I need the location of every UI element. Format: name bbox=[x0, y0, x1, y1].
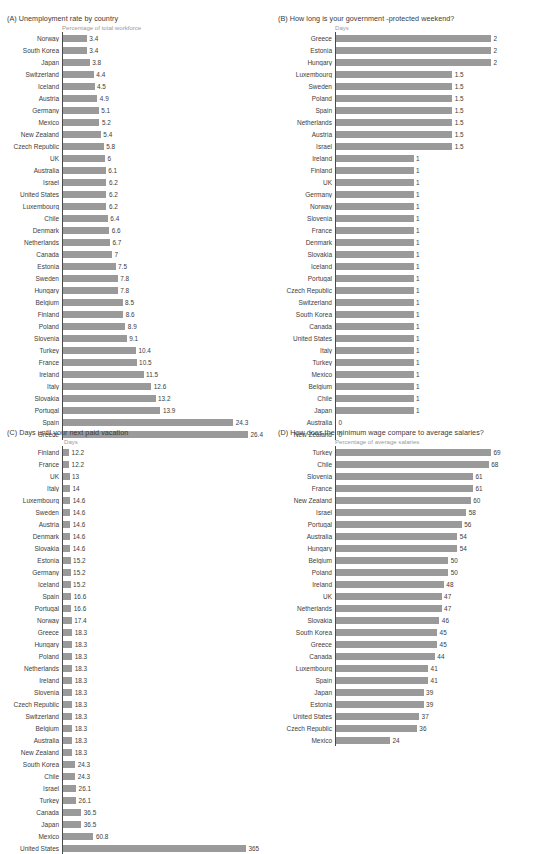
panel-c-title: (C) Days until your next paid vacation bbox=[7, 428, 270, 437]
bar-row: Netherlands47 bbox=[273, 602, 541, 614]
bar-row: Spain24.3 bbox=[2, 416, 270, 428]
bar-row: South Korea24.3 bbox=[2, 758, 270, 770]
category-label: Czech Republic bbox=[2, 701, 62, 708]
bar bbox=[63, 533, 70, 540]
category-label: Belgium bbox=[2, 725, 62, 732]
category-label: Australia bbox=[273, 533, 335, 540]
bar-row: Netherlands1.5 bbox=[273, 116, 541, 128]
bar-row: Australia54 bbox=[273, 530, 541, 542]
bar bbox=[336, 569, 448, 576]
category-label: Spain bbox=[273, 107, 335, 114]
bar bbox=[336, 335, 414, 342]
bar-row: Slovenia1 bbox=[273, 212, 541, 224]
bar-row: Czech Republic36 bbox=[273, 722, 541, 734]
category-label: Luxembourg bbox=[273, 665, 335, 672]
bar-row: Sweden14.6 bbox=[2, 506, 270, 518]
bar-value-label: 18.3 bbox=[75, 725, 87, 732]
bar-value-label: 18.3 bbox=[75, 665, 87, 672]
bar-value-label: 1 bbox=[416, 395, 420, 402]
panel-b-rows: Greece2Estonia2Hungary2Luxembourg1.5Swed… bbox=[273, 32, 541, 440]
category-label: Japan bbox=[2, 59, 62, 66]
bar-track: 47 bbox=[335, 602, 541, 614]
bar-track: 6.2 bbox=[62, 188, 270, 200]
bar-track: 6.2 bbox=[62, 200, 270, 212]
bar bbox=[336, 713, 419, 720]
category-label: UK bbox=[2, 473, 62, 480]
bar-row: Chile6.4 bbox=[2, 212, 270, 224]
bar-track: 15.2 bbox=[62, 566, 270, 578]
category-label: Mexico bbox=[273, 737, 335, 744]
bar-track: 8.9 bbox=[62, 320, 270, 332]
bar-track: 5.2 bbox=[62, 116, 270, 128]
bar-row: Italy14 bbox=[2, 482, 270, 494]
bar-track: 3.4 bbox=[62, 44, 270, 56]
bar-value-label: 13.2 bbox=[158, 395, 170, 402]
bar-track: 18.3 bbox=[62, 686, 270, 698]
bar-value-label: 1 bbox=[416, 203, 420, 210]
bar-row: Greece18.3 bbox=[2, 626, 270, 638]
category-label: Netherlands bbox=[2, 665, 62, 672]
category-label: Turkey bbox=[273, 359, 335, 366]
bar-value-label: 14.6 bbox=[73, 533, 85, 540]
bar-row: Czech Republic18.3 bbox=[2, 698, 270, 710]
bar bbox=[336, 191, 414, 198]
bar-track: 7.8 bbox=[62, 272, 270, 284]
bar-value-label: 1 bbox=[416, 383, 420, 390]
bar-value-label: 18.3 bbox=[75, 749, 87, 756]
bar-row: Ireland18.3 bbox=[2, 674, 270, 686]
panel-b-chart: Greece2Estonia2Hungary2Luxembourg1.5Swed… bbox=[273, 32, 541, 440]
bar-track: 1 bbox=[335, 188, 541, 200]
category-label: Canada bbox=[273, 653, 335, 660]
category-label: Israel bbox=[273, 143, 335, 150]
bar bbox=[63, 593, 71, 600]
bar-value-label: 36.5 bbox=[84, 821, 96, 828]
bar-track: 6.1 bbox=[62, 164, 270, 176]
bar bbox=[336, 47, 491, 54]
category-label: Japan bbox=[273, 689, 335, 696]
bar-value-label: 3.4 bbox=[89, 47, 98, 54]
bar-value-label: 1.5 bbox=[455, 143, 464, 150]
bar-value-label: 2 bbox=[494, 47, 498, 54]
bar-track: 1 bbox=[335, 164, 541, 176]
panel-c-rows: Finland12.2France12.2UK13Italy14Luxembou… bbox=[2, 446, 270, 854]
bar-row: Israel26.1 bbox=[2, 782, 270, 794]
bar-row: Belgium18.3 bbox=[2, 722, 270, 734]
category-label: Belgium bbox=[273, 383, 335, 390]
bar-track: 1 bbox=[335, 332, 541, 344]
bar-track: 16.6 bbox=[62, 590, 270, 602]
bar-value-label: 1.5 bbox=[455, 83, 464, 90]
category-label: Australia bbox=[2, 167, 62, 174]
bar-row: Sweden7.8 bbox=[2, 272, 270, 284]
category-label: Denmark bbox=[2, 227, 62, 234]
bar-value-label: 50 bbox=[451, 569, 458, 576]
bar bbox=[336, 665, 428, 672]
category-label: Ireland bbox=[273, 581, 335, 588]
panel-c-subtitle: Days bbox=[2, 438, 270, 445]
bar-value-label: 1 bbox=[416, 287, 420, 294]
bar-track: 6 bbox=[62, 152, 270, 164]
bar-track: 48 bbox=[335, 578, 541, 590]
bar-track: 14.6 bbox=[62, 530, 270, 542]
bar-value-label: 6.1 bbox=[108, 167, 117, 174]
bar bbox=[336, 449, 491, 456]
bar bbox=[336, 119, 452, 126]
bar bbox=[336, 275, 414, 282]
category-label: Finland bbox=[2, 311, 62, 318]
category-label: Luxembourg bbox=[2, 203, 62, 210]
bar bbox=[63, 83, 95, 90]
bar-row: Ireland48 bbox=[273, 578, 541, 590]
bar-track: 1 bbox=[335, 176, 541, 188]
bar bbox=[336, 497, 471, 504]
bar-value-label: 4.5 bbox=[97, 83, 106, 90]
bar-row: Australia0 bbox=[273, 416, 541, 428]
bar-row: Germany1 bbox=[273, 188, 541, 200]
bar-track: 54 bbox=[335, 530, 541, 542]
bar-track: 1 bbox=[335, 200, 541, 212]
bar-track: 18.3 bbox=[62, 674, 270, 686]
bar-row: Spain16.6 bbox=[2, 590, 270, 602]
bar-value-label: 11.5 bbox=[146, 371, 158, 378]
bar-value-label: 58 bbox=[469, 509, 476, 516]
bar-track: 45 bbox=[335, 626, 541, 638]
bar-value-label: 54 bbox=[460, 545, 467, 552]
bar bbox=[336, 641, 437, 648]
